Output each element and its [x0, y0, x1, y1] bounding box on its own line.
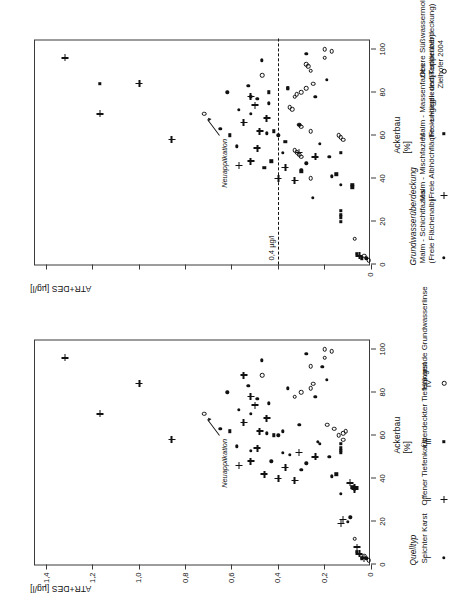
annotation-arrow-head: [207, 416, 212, 421]
data-point-circ: [329, 349, 334, 354]
x-tick-label: 40: [378, 464, 387, 492]
data-point-dot: [235, 144, 238, 147]
data-point-dot: [219, 127, 222, 130]
x-tick-mark: [371, 434, 376, 435]
data-point-sq: [267, 90, 270, 93]
y-tick-mark: [185, 264, 186, 269]
legend-symbol-plus: [441, 496, 448, 503]
data-point-dot: [249, 112, 252, 115]
data-point-sq: [98, 82, 101, 85]
data-point-sq: [335, 472, 338, 475]
data-point-plus: [275, 474, 282, 481]
data-point-plus: [252, 401, 259, 408]
panel-left-x-axis-title-line1: Ackerbau: [392, 416, 402, 453]
data-point-plus: [240, 418, 247, 425]
panel-right-x-axis-title-line1: Ackerbau: [392, 116, 402, 153]
data-point-dot: [246, 384, 249, 387]
data-point-circ: [292, 148, 297, 153]
data-point-circ: [292, 394, 297, 399]
data-point-plus: [136, 380, 143, 387]
x-tick-mark: [371, 477, 376, 478]
data-point-plus: [296, 449, 303, 456]
data-point-dot: [219, 427, 222, 430]
legend-item-label-line1: Obere Süßwassermolasse: [418, 0, 427, 77]
data-point-sq: [286, 86, 289, 89]
data-point-circ: [311, 381, 316, 386]
data-point-circ: [322, 55, 327, 60]
data-point-circ: [202, 411, 207, 416]
data-point-circ: [362, 253, 367, 258]
x-tick-mark: [371, 134, 376, 135]
legend-symbol-dot: [442, 555, 445, 558]
data-point-circ: [322, 346, 327, 351]
data-point-dot: [325, 377, 328, 380]
x-tick-mark: [371, 520, 376, 521]
data-point-dot: [237, 107, 240, 110]
data-point-plus: [291, 477, 298, 484]
x-tick-label: 60: [378, 121, 387, 149]
data-point-circ: [366, 557, 371, 562]
data-point-sq: [339, 219, 342, 222]
data-point-plus: [254, 444, 261, 451]
data-point-sq: [351, 485, 354, 488]
data-point-sq: [263, 165, 266, 168]
y-tick-mark: [92, 264, 93, 269]
legend-symbol-circ: [442, 381, 447, 386]
x-tick-label: 0: [378, 250, 387, 278]
x-tick-mark: [371, 177, 376, 178]
data-point-circ: [352, 236, 357, 241]
data-point-dot: [304, 351, 307, 354]
data-point-dot: [325, 77, 328, 80]
data-point-plus: [263, 414, 270, 421]
y-tick-mark: [46, 564, 47, 569]
y-tick-label: 0: [366, 572, 375, 603]
legend-item-label: Obere Süßwassermolasse(Tertiärüberdeckun…: [418, 0, 437, 77]
panel-right-x-axis-title-line2: [%]: [402, 140, 412, 153]
y-tick-label: 0,6: [227, 572, 236, 603]
data-point-plus: [261, 470, 268, 477]
data-point-dot: [246, 84, 249, 87]
legend-item-label-line1: Seichter Karst: [420, 513, 429, 563]
data-point-dot: [328, 455, 331, 458]
data-point-dot: [304, 461, 307, 464]
data-point-dot: [330, 174, 333, 177]
data-point-dot: [267, 401, 270, 404]
data-point-circ: [304, 85, 309, 90]
legend-symbol-plus: [441, 192, 448, 199]
x-tick-mark: [371, 391, 376, 392]
legend-item-label: Seichter Karst: [420, 513, 429, 563]
x-tick-label: 60: [378, 421, 387, 449]
data-point-dot: [270, 459, 273, 462]
data-point-plus: [168, 436, 175, 443]
data-point-plus: [235, 462, 242, 469]
data-point-dot: [256, 397, 259, 400]
data-point-plus: [282, 164, 289, 171]
x-tick-label: 40: [378, 164, 387, 192]
legend-grundwasser-title: Grundwasserüberdeckung: [408, 167, 418, 265]
panel-left-plot-area: 00,20,40,60,81,01,21,4020406080100Neuapp…: [34, 339, 370, 565]
data-point-plus: [247, 457, 254, 464]
data-point-plus: [240, 118, 247, 125]
panel-grundwasserueberdeckung: ATR+DES [µg/l] 00204060801000,4 µg/lNeua…: [0, 0, 454, 303]
x-tick-label: 100: [378, 335, 387, 363]
y-tick-mark: [139, 264, 140, 269]
data-point-plus: [235, 162, 242, 169]
x-tick-mark: [371, 564, 376, 565]
data-point-circ: [332, 426, 337, 431]
threshold-label: 0,4 µg/l: [267, 235, 276, 260]
x-tick-mark: [371, 348, 376, 349]
x-tick-label: 100: [378, 35, 387, 63]
data-point-circ: [304, 62, 309, 67]
x-tick-label: 80: [378, 78, 387, 106]
y-tick-mark: [324, 264, 325, 269]
data-point-circ: [336, 133, 341, 138]
annotation-arrow-head: [207, 116, 212, 121]
data-point-dot: [339, 491, 342, 494]
data-point-circ: [322, 355, 327, 360]
data-point-plus: [247, 157, 254, 164]
panel-left-y-axis-title: ATR+DES [µg/l]: [30, 583, 91, 593]
data-point-plus: [275, 174, 282, 181]
data-point-dot: [297, 422, 300, 425]
data-point-sq: [270, 159, 273, 162]
data-point-circ: [308, 176, 313, 181]
